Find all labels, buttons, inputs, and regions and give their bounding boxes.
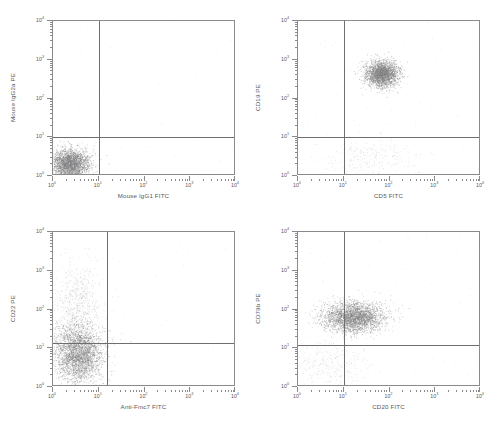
x-tick: [112, 179, 113, 182]
y-tick: [295, 324, 298, 325]
x-tick: [333, 179, 334, 182]
y-tick: [50, 374, 53, 375]
x-tick: [427, 390, 428, 393]
y-tick: [50, 290, 53, 291]
y-tick: [295, 336, 298, 337]
x-tick-label: 100: [293, 182, 301, 188]
y-tick: [50, 329, 53, 330]
x-tick: [52, 387, 53, 392]
x-axis-title: Mouse IgG1 FITC: [52, 192, 235, 199]
y-tick: [50, 61, 53, 62]
y-tick: [295, 274, 298, 275]
y-tick: [295, 312, 298, 313]
y-axis-title: CD19 PE: [253, 20, 262, 175]
x-tick: [74, 179, 75, 182]
y-tick-label: 101: [275, 133, 289, 139]
y-tick: [295, 285, 298, 286]
y-tick: [295, 67, 298, 68]
x-tick: [389, 387, 390, 392]
y-tick: [50, 315, 53, 316]
y-tick: [50, 32, 53, 33]
y-tick: [295, 297, 298, 298]
y-tick: [295, 118, 298, 119]
x-tick: [136, 390, 137, 393]
x-tick: [120, 179, 121, 182]
y-tick: [50, 99, 53, 100]
dot-plot-panel-top-left: 100101102103104 100101102103104 Mouse Ig…: [0, 0, 244, 215]
scatter-layer: [298, 232, 479, 385]
x-tick: [297, 387, 298, 392]
x-tick-label: 104: [231, 393, 239, 399]
x-tick: [424, 390, 425, 393]
x-tick: [434, 387, 435, 392]
x-tick: [381, 390, 382, 393]
y-tick: [50, 86, 53, 87]
y-tick: [292, 270, 297, 271]
y-tick: [47, 309, 52, 310]
x-tick: [133, 390, 134, 393]
y-tick-label: 101: [275, 344, 289, 350]
y-tick: [295, 22, 298, 23]
x-tick: [130, 390, 131, 393]
gate-line-horizontal: [298, 345, 479, 346]
y-tick: [50, 29, 53, 30]
y-tick: [50, 243, 53, 244]
y-tick: [50, 353, 53, 354]
y-tick: [50, 233, 53, 234]
y-tick: [50, 351, 53, 352]
y-axis-ticks: [46, 231, 52, 386]
y-tick: [47, 136, 52, 137]
y-tick: [295, 24, 298, 25]
y-tick-label: 100: [275, 383, 289, 389]
y-tick: [50, 285, 53, 286]
y-tick: [295, 125, 298, 126]
y-axis-title: Mouse IgG2a PE: [8, 20, 17, 175]
x-tick: [144, 387, 145, 392]
x-tick-label: 103: [430, 393, 438, 399]
y-tick: [295, 237, 298, 238]
x-tick-label: 104: [476, 393, 484, 399]
x-tick: [430, 390, 431, 393]
x-tick-label: 102: [385, 393, 393, 399]
x-tick: [448, 390, 449, 393]
y-tick-label: 103: [275, 56, 289, 62]
x-tick: [179, 390, 180, 393]
y-tick: [295, 138, 298, 139]
plot-area: [297, 20, 480, 175]
x-tick: [98, 387, 99, 392]
x-tick: [136, 179, 137, 182]
y-tick: [295, 163, 298, 164]
y-tick: [295, 26, 298, 27]
y-tick: [295, 368, 298, 369]
y-tick: [50, 157, 53, 158]
x-tick: [375, 179, 376, 182]
x-tick: [185, 390, 186, 393]
y-tick: [50, 312, 53, 313]
y-tick: [295, 63, 298, 64]
y-axis-title-text: Mouse IgG2a PE: [9, 73, 16, 122]
x-tick-label: 104: [231, 182, 239, 188]
plot-area: [52, 231, 235, 386]
y-tick: [50, 363, 53, 364]
y-tick-label: 103: [275, 267, 289, 273]
y-tick-label: 104: [275, 17, 289, 23]
x-tick: [319, 179, 320, 182]
y-tick-label: 104: [30, 17, 44, 23]
x-tick: [175, 179, 176, 182]
y-tick: [50, 251, 53, 252]
x-tick: [225, 390, 226, 393]
x-tick: [221, 179, 222, 182]
x-tick: [456, 390, 457, 393]
x-tick: [221, 390, 222, 393]
y-tick: [295, 272, 298, 273]
flow-cytometry-figure: 100101102103104 100101102103104 Mouse Ig…: [0, 0, 489, 431]
y-tick: [292, 136, 297, 137]
y-tick: [50, 359, 53, 360]
y-tick: [295, 310, 298, 311]
y-tick: [295, 349, 298, 350]
x-tick: [189, 176, 190, 181]
x-tick: [386, 390, 387, 393]
y-tick: [295, 374, 298, 375]
y-tick: [50, 317, 53, 318]
x-tick: [416, 390, 417, 393]
